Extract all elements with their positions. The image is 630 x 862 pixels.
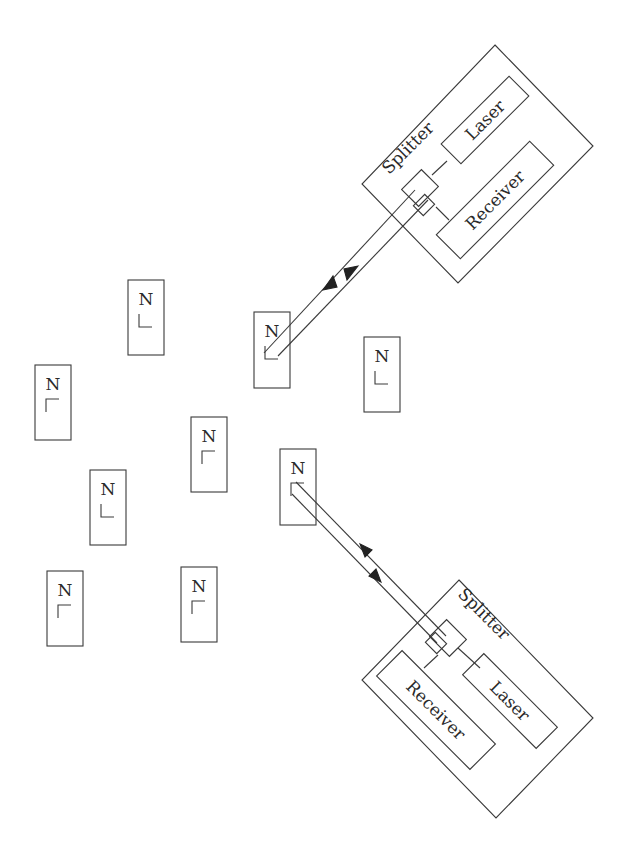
corner-reflector-icon <box>58 605 71 618</box>
node-label: N <box>139 289 154 309</box>
node-label: N <box>101 479 116 499</box>
arrow-up-icon <box>344 266 358 280</box>
network-node: N <box>364 337 400 412</box>
network-node: N <box>47 571 83 646</box>
corner-reflector-icon <box>265 346 278 359</box>
network-node: N <box>181 567 217 642</box>
node-label: N <box>291 458 306 478</box>
network-node: N <box>90 470 126 545</box>
network-node: N <box>35 365 71 440</box>
network-node: N <box>128 280 164 355</box>
receiver-label-bottom: Receiver <box>402 676 470 744</box>
corner-reflector-icon <box>101 504 114 517</box>
corner-reflector-icon <box>192 601 205 614</box>
corner-reflector-icon <box>291 483 304 496</box>
splitter-label-top: Splitter <box>378 117 439 178</box>
laser-label-bottom: Laser <box>486 677 535 726</box>
splitter-outer-top <box>402 170 439 207</box>
corner-reflector-icon <box>375 371 388 384</box>
network-node: N <box>191 417 227 492</box>
node-label: N <box>265 321 280 341</box>
node-group: NNNNNNNNN <box>35 280 400 646</box>
optical-link-diagram: Laser Receiver Splitter Laser <box>0 0 630 862</box>
fiber-link-top <box>264 190 428 356</box>
transceiver-bottom: Laser Receiver Splitter <box>362 580 593 818</box>
transceiver-top: Laser Receiver Splitter <box>362 45 593 283</box>
arrow-up-icon <box>360 544 372 557</box>
node-label: N <box>46 374 61 394</box>
node-label: N <box>58 580 73 600</box>
arrow-down-icon <box>323 276 337 290</box>
corner-reflector-icon <box>202 451 215 464</box>
node-label: N <box>192 576 207 596</box>
fiber-link-bottom <box>292 482 446 643</box>
corner-reflector-icon <box>46 399 59 412</box>
laser-label-top: Laser <box>461 95 510 144</box>
node-label: N <box>375 346 390 366</box>
splitter-label-bottom: Splitter <box>454 584 515 645</box>
node-label: N <box>202 426 217 446</box>
corner-reflector-icon <box>139 314 152 327</box>
network-node: N <box>254 312 290 388</box>
